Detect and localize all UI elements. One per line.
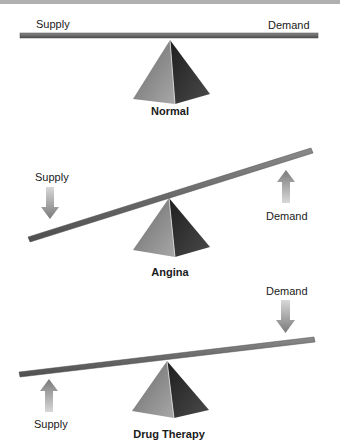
demand-label: Demand: [268, 19, 310, 31]
up-arrow-icon: [40, 379, 58, 412]
panel-drug-therapy: Demand Supply Drug Therapy: [19, 285, 315, 440]
seesaw-beam: [20, 33, 318, 38]
supply-label: Supply: [34, 418, 68, 430]
down-arrow-icon: [276, 300, 295, 333]
diagram-canvas: Supply Demand Normal Supply Demand Angin…: [0, 0, 340, 440]
up-arrow-icon: [277, 170, 295, 203]
panel-caption: Normal: [151, 105, 189, 117]
panel-normal: Supply Demand Normal: [20, 18, 318, 117]
fulcrum-pyramid: [133, 198, 210, 257]
panel-caption: Drug Therapy: [133, 428, 205, 440]
panel-caption: Angina: [151, 266, 189, 278]
fulcrum-pyramid: [132, 361, 209, 418]
fulcrum-pyramid: [133, 40, 210, 104]
seesaw-diagram: Supply Demand Normal Supply Demand Angin…: [0, 0, 340, 440]
supply-label: Supply: [35, 171, 69, 183]
top-border: [0, 0, 340, 4]
demand-label: Demand: [266, 210, 308, 222]
supply-label: Supply: [36, 18, 70, 30]
demand-label: Demand: [266, 285, 308, 297]
down-arrow-icon: [41, 187, 59, 219]
panel-angina: Supply Demand Angina: [28, 148, 313, 278]
